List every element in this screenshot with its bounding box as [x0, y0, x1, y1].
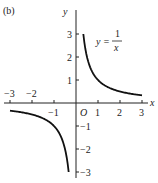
x-tick-label: −3: [4, 88, 15, 99]
y-tick-label: 1: [67, 75, 72, 86]
reciprocal-graph: −3−2−1123−3−2−1123 (b) y x O y = 1 x: [0, 0, 158, 183]
curve-positive-branch: [83, 34, 142, 95]
x-axis-label: x: [149, 97, 155, 108]
equation-denominator: x: [113, 42, 119, 53]
x-tick-label: 1: [95, 107, 100, 118]
x-tick-label: 2: [117, 107, 122, 118]
y-tick-label: −1: [80, 121, 91, 132]
origin-label: O: [80, 107, 87, 118]
y-tick-label: −2: [80, 144, 91, 155]
equation-lhs: y =: [95, 36, 110, 47]
y-tick-label: 2: [67, 52, 72, 63]
curve-negative-branch: [10, 111, 69, 172]
y-axis-label: y: [62, 6, 68, 17]
x-tick-label: −1: [48, 107, 59, 118]
y-tick-label: −3: [80, 167, 91, 178]
x-tick-label: 3: [139, 107, 144, 118]
chart-panel: −3−2−1123−3−2−1123 (b) y x O y = 1 x: [0, 0, 158, 183]
panel-label: (b): [3, 5, 15, 17]
x-tick-label: −2: [26, 88, 37, 99]
equation-numerator: 1: [115, 28, 120, 39]
y-tick-label: 3: [67, 29, 72, 40]
